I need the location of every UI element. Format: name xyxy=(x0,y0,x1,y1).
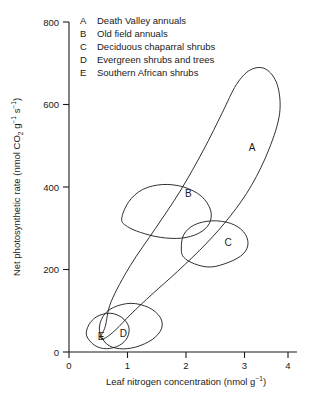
legend-item: A Death Valley annuals xyxy=(80,15,186,26)
y-axis-title-part1: Net photosynthetic rate (nmol CO xyxy=(11,135,22,276)
legend-label-d: Evergreen shrubs and trees xyxy=(97,54,214,65)
x-ticklabel-4: 4 xyxy=(285,360,290,371)
y-axis-title: Net photosynthetic rate (nmol CO2 g−1 s−… xyxy=(10,98,23,276)
envelope-label-c: C xyxy=(225,237,232,248)
svg-text:Leaf nitrogen concentration (n: Leaf nitrogen concentration (nmol g−1) xyxy=(106,375,266,387)
x-ticklabel-0: 0 xyxy=(66,360,71,371)
legend-item: D Evergreen shrubs and trees xyxy=(80,54,214,65)
legend-item: B Old field annuals xyxy=(80,28,168,39)
x-axis-title: Leaf nitrogen concentration (nmol g−1) xyxy=(106,375,266,387)
data-envelopes xyxy=(86,67,280,348)
y-ticklabel-200: 200 xyxy=(43,264,59,275)
legend-label-b: Old field annuals xyxy=(97,28,168,39)
envelope-label-a: A xyxy=(249,142,256,153)
legend-key-e: E xyxy=(80,67,86,78)
x-ticklabel-2: 2 xyxy=(183,360,188,371)
legend-label-a: Death Valley annuals xyxy=(97,15,186,26)
x-axis-title-main: Leaf nitrogen concentration (nmol g xyxy=(106,376,255,387)
y-ticklabel-400: 400 xyxy=(43,182,59,193)
legend-key-d: D xyxy=(80,54,87,65)
chart-legend: A Death Valley annuals B Old field annua… xyxy=(80,15,216,78)
x-axis-title-tail: ) xyxy=(263,376,266,387)
envelope-label-b: B xyxy=(185,188,192,199)
envelope-label-d: D xyxy=(120,328,127,339)
legend-key-b: B xyxy=(80,28,86,39)
x-ticklabel-1: 1 xyxy=(125,360,130,371)
legend-item: C Deciduous chaparral shrubs xyxy=(80,41,216,52)
envelope-labels: A B C D E xyxy=(98,142,256,342)
legend-key-c: C xyxy=(80,41,87,52)
chart-svg: A Death Valley annuals B Old field annua… xyxy=(0,0,319,393)
y-axis-title-tail: ) xyxy=(11,98,22,101)
legend-label-c: Deciduous chaparral shrubs xyxy=(97,41,216,52)
y-ticklabel-600: 600 xyxy=(43,99,59,110)
chart-figure: A Death Valley annuals B Old field annua… xyxy=(0,0,319,393)
x-ticklabel-3: 3 xyxy=(242,360,247,371)
y-ticklabel-0: 0 xyxy=(54,347,59,358)
svg-text:Net photosynthetic rate (nmol: Net photosynthetic rate (nmol CO2 g−1 s−… xyxy=(10,98,23,276)
envelope-d xyxy=(99,303,162,349)
y-ticklabel-800: 800 xyxy=(43,17,59,28)
legend-label-e: Southern African shrubs xyxy=(97,67,199,78)
legend-item: E Southern African shrubs xyxy=(80,67,199,78)
y-axis-title-part2: g xyxy=(11,124,22,132)
legend-key-a: A xyxy=(80,15,87,26)
envelope-c xyxy=(181,221,248,267)
envelope-label-e: E xyxy=(98,331,105,342)
